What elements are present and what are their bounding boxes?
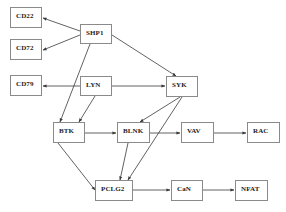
pathway-diagram: CD22CD72SHP1CD79LYNSYKBTKBLNKVAVRACPCLG2… [0, 0, 286, 212]
node-label: CD72 [16, 44, 34, 52]
node-cd79: CD79 [10, 75, 42, 96]
node-cd22: CD22 [10, 7, 42, 28]
node-blnk: BLNK [117, 122, 150, 143]
node-vav: VAV [181, 122, 214, 143]
node-label: PCLG2 [101, 185, 124, 193]
node-shp1: SHP1 [80, 24, 112, 44]
node-label: LYN [86, 81, 100, 89]
node-label: CD79 [16, 80, 34, 88]
node-label: BLNK [123, 127, 143, 135]
node-label: SHP1 [86, 29, 104, 37]
edge-btk-to-pclg2 [58, 143, 95, 190]
node-btk: BTK [53, 122, 85, 143]
edge-shp1-to-cd72 [43, 35, 80, 50]
node-lyn: LYN [80, 76, 112, 96]
edge-shp1-to-syk [112, 35, 176, 76]
node-syk: SYK [166, 76, 198, 97]
edge-lyn-to-btk [79, 96, 95, 122]
node-label: VAV [187, 127, 201, 135]
edge-blnk-to-pclg2 [120, 143, 128, 180]
node-rac: RAC [247, 122, 280, 143]
node-label: BTK [59, 127, 74, 135]
node-label: NFAT [241, 185, 259, 193]
node-label: RAC [253, 127, 268, 135]
node-nfat: NFAT [235, 180, 268, 201]
node-label: CD22 [16, 12, 34, 20]
node-pclg2: PCLG2 [95, 180, 133, 201]
node-can: CaN [171, 180, 203, 201]
node-label: SYK [172, 81, 187, 89]
node-cd72: CD72 [10, 39, 42, 60]
edge-shp1-to-cd22 [43, 18, 80, 31]
node-label: CaN [177, 185, 191, 193]
